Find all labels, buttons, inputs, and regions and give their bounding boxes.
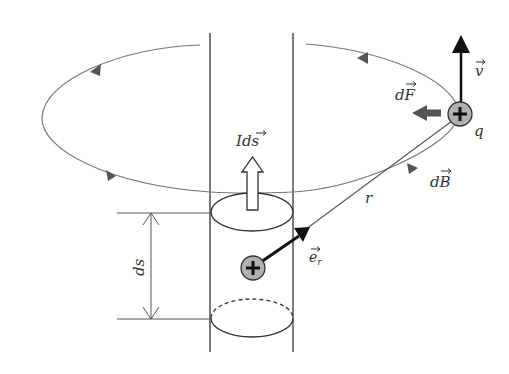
field-label: dB bbox=[430, 173, 451, 191]
field-arrow-icon bbox=[407, 163, 418, 174]
charge-label: q bbox=[474, 122, 484, 140]
distance-label: r bbox=[365, 189, 373, 207]
segment-bottom-ellipse-back bbox=[211, 299, 293, 318]
segment-bottom-ellipse-front bbox=[211, 318, 293, 337]
velocity-label: v bbox=[475, 62, 484, 80]
unit-vector-label: er bbox=[309, 249, 322, 267]
source-charge-icon bbox=[241, 256, 265, 280]
force-arrow-icon bbox=[412, 105, 441, 121]
velocity-arrowhead-icon bbox=[452, 35, 470, 53]
moving-charge-icon bbox=[448, 102, 472, 126]
segment-length-label: ds bbox=[130, 258, 148, 276]
field-arrow-icon bbox=[106, 170, 116, 181]
radius-line bbox=[298, 121, 452, 235]
field-arrow-icon bbox=[90, 64, 101, 76]
biot-savart-diagram: Ids ds er r dB v dF q bbox=[0, 0, 509, 374]
unit-vector-arrowhead-icon bbox=[294, 227, 310, 242]
field-arrow-icon bbox=[357, 52, 368, 64]
force-label: dF bbox=[395, 86, 416, 104]
current-element-label: Ids bbox=[235, 132, 260, 150]
